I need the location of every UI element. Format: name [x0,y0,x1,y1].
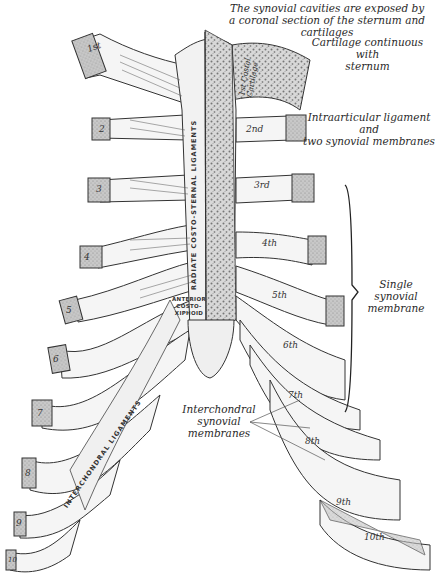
rib-label-left-8: 8 [25,468,31,478]
caption-line-1: The synovial cavities are exposed by [218,2,436,14]
annotation-line: Cartilage continuous with [300,36,435,60]
rib-label-left-2: 2 [99,124,105,134]
rib-label-right-2: 2nd [246,124,263,134]
annotation-interchondral: Interchondral synovial membranes [180,403,258,439]
annotation-line: Interchondral [180,403,258,415]
rib-label-right-5: 5th [272,290,287,300]
rib-label-left-9: 9 [16,518,22,528]
rib-label-right-3: 3rd [254,180,270,190]
label-anterior-costoxiphoid: ANTERIOR COSTO- XIPHOID [172,296,206,317]
xiphoid-process [188,320,234,378]
label-radiate-ligaments: RADIATE COSTO-STERNAL LIGAMENTS [190,120,198,290]
label-line: COSTO- [172,303,206,310]
annotation-line: membrane [356,302,436,314]
annotation-line: Intraarticular ligament and [300,111,438,135]
rib-label-right-9: 9th [336,497,351,507]
caption-title: The synovial cavities are exposed by a c… [218,2,436,38]
rib-label-right-7: 7th [288,390,303,400]
annotation-line: sternum [300,60,435,72]
annotation-line: synovial [180,415,258,427]
annotation-line: two synovial membranes [300,135,438,147]
rib-label-left-6: 6 [53,354,59,364]
rib-label-left-3: 3 [96,184,102,194]
rib-label-left-4: 4 [84,252,90,262]
rib-label-right-8: 8th [305,436,320,446]
rib-label-left-5: 5 [66,305,72,315]
left-costal-cartilages [6,33,195,571]
rib-label-left-10: 10 [8,556,17,564]
caption-line-2: a coronal section of the sternum and car… [218,14,436,38]
annotation-intraarticular: Intraarticular ligament and two synovial… [300,111,438,147]
label-line: ANTERIOR [172,296,206,303]
label-line: XIPHOID [172,310,206,317]
annotation-line: membranes [180,427,258,439]
rib-label-right-4: 4th [262,238,277,248]
sternum-coronal-section [205,30,236,330]
annotation-line: Single synovial [356,278,436,302]
annotation-single-synovial: Single synovial membrane [356,278,436,314]
annotation-cartilage-continuous: Cartilage continuous with sternum [300,36,435,72]
rib-label-right-6: 6th [283,340,298,350]
rib-label-left-7: 7 [37,408,43,418]
rib-label-right-10: 10th [364,532,385,542]
